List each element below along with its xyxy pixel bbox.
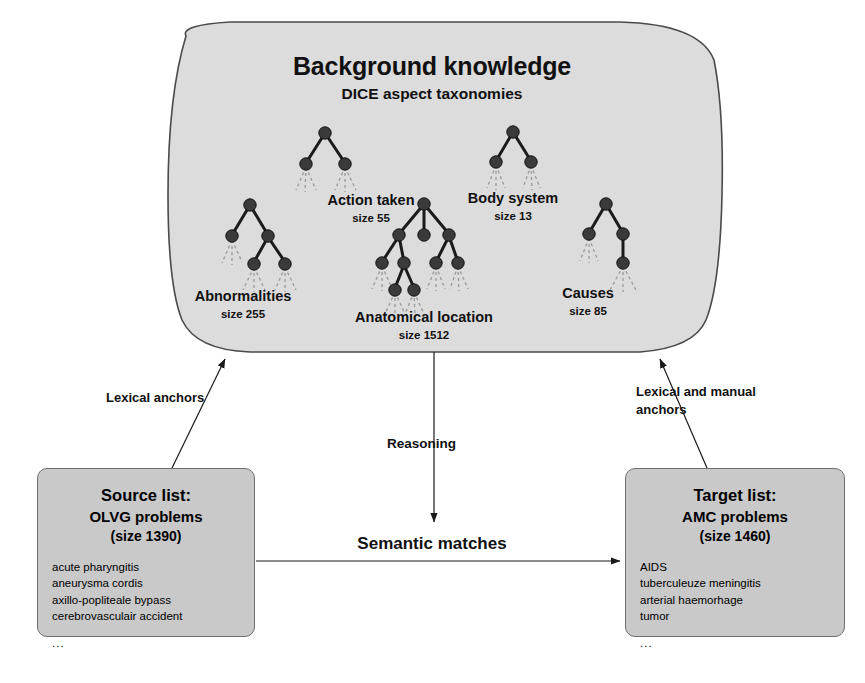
target-list-box[interactable]: Target list: AMC problems (size 1460) AI… bbox=[625, 468, 845, 637]
edge-label-reasoning: Reasoning bbox=[387, 436, 456, 452]
taxonomy-label-anatomical-location: Anatomical location bbox=[355, 309, 493, 326]
taxonomy-label-causes: Causes bbox=[562, 285, 614, 302]
taxonomy-size-causes: size 85 bbox=[569, 305, 607, 319]
list-item: acute pharyngitis bbox=[52, 559, 182, 575]
target-list-title: Target list: bbox=[626, 486, 844, 505]
arrow-lexical-anchors bbox=[172, 359, 225, 468]
list-item: axillo-popliteale bypass bbox=[52, 592, 182, 608]
taxonomy-size-body-system: size 13 bbox=[494, 210, 532, 224]
source-list-title: Source list: bbox=[38, 486, 254, 505]
source-list-box[interactable]: Source list: OLVG problems (size 1390) a… bbox=[37, 468, 255, 637]
list-item: arterial haemorhage bbox=[640, 592, 761, 608]
target-list-subtitle: AMC problems bbox=[626, 508, 844, 525]
source-list-ellipsis: ... bbox=[52, 635, 182, 651]
list-item: tumor bbox=[640, 608, 761, 624]
taxonomy-label-abnormalities: Abnormalities bbox=[195, 288, 292, 305]
background-knowledge-subtitle: DICE aspect taxonomies bbox=[342, 85, 523, 103]
target-list-ellipsis: ... bbox=[640, 635, 761, 651]
edge-label-lexical-anchors: Lexical anchors bbox=[106, 390, 204, 405]
list-item: AIDS bbox=[640, 559, 761, 575]
source-list-items: acute pharyngitis aneurysma cordis axill… bbox=[52, 559, 182, 652]
taxonomy-label-action-taken: Action taken bbox=[327, 192, 414, 209]
background-knowledge-title: Background knowledge bbox=[293, 52, 571, 82]
target-list-items: AIDS tuberculeuze meningitis arterial ha… bbox=[640, 559, 761, 652]
edge-label-lexical-and-manual-anchors-line1: Lexical and manual bbox=[636, 384, 756, 399]
taxonomy-label-body-system: Body system bbox=[468, 190, 558, 207]
edge-label-semantic-matches: Semantic matches bbox=[357, 534, 506, 554]
taxonomy-size-action-taken: size 55 bbox=[352, 212, 390, 226]
diagram-canvas: Background knowledge DICE aspect taxonom… bbox=[0, 0, 865, 683]
list-item: tuberculeuze meningitis bbox=[640, 575, 761, 591]
taxonomy-size-anatomical-location: size 1512 bbox=[399, 329, 450, 343]
edge-label-lexical-and-manual-anchors-line2: anchors bbox=[636, 402, 687, 417]
target-list-size: (size 1460) bbox=[626, 528, 844, 544]
taxonomy-size-abnormalities: size 255 bbox=[221, 308, 265, 322]
list-item: cerebrovasculair accident bbox=[52, 608, 182, 624]
source-list-size: (size 1390) bbox=[38, 528, 254, 544]
source-list-subtitle: OLVG problems bbox=[38, 508, 254, 525]
list-item: aneurysma cordis bbox=[52, 575, 182, 591]
